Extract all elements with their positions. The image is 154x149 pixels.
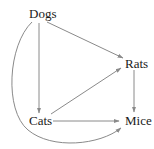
node-rats: Rats (125, 57, 148, 71)
node-cats: Cats (29, 114, 52, 128)
edge-cats-rats (51, 68, 121, 114)
node-dogs: Dogs (29, 7, 56, 21)
edge-dogs-rats (47, 22, 123, 58)
node-mice: Mice (125, 114, 152, 128)
food-web-diagram: Dogs Rats Cats Mice (0, 0, 154, 149)
